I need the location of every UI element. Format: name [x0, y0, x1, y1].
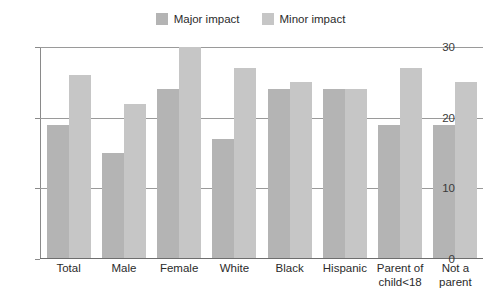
bar-minor-impact — [69, 75, 91, 259]
legend-item-major-impact: Major impact — [156, 13, 240, 25]
x-label-line: Parent of — [374, 262, 427, 276]
bar-group — [207, 47, 262, 259]
bar-minor-impact — [290, 82, 312, 259]
x-label-parent-of-child-18: Parent ofchild<18 — [373, 262, 428, 289]
legend-label-major-impact: Major impact — [174, 13, 240, 25]
x-label-hispanic: Hispanic — [317, 262, 372, 289]
x-label-white: White — [207, 262, 262, 289]
y-tick-label-30: 30 — [427, 41, 455, 53]
x-label-line: Female — [153, 262, 206, 276]
x-axis-line — [40, 258, 483, 259]
bar-major-impact — [212, 139, 234, 259]
y-tick-mark-30 — [35, 47, 40, 48]
bar-group — [317, 47, 372, 259]
bar-major-impact — [268, 89, 290, 259]
bar-group — [96, 47, 151, 259]
x-label-black: Black — [262, 262, 317, 289]
x-label-line: parent — [429, 276, 482, 290]
bar-group — [152, 47, 207, 259]
bar-group — [373, 47, 428, 259]
bar-major-impact — [378, 125, 400, 259]
bar-group — [262, 47, 317, 259]
bar-minor-impact — [124, 104, 146, 259]
bar-group — [428, 47, 483, 259]
bar-minor-impact — [234, 68, 256, 259]
bar-minor-impact — [455, 82, 477, 259]
x-label-total: Total — [41, 262, 96, 289]
legend-swatch-major-impact — [156, 13, 168, 25]
bar-group — [41, 47, 96, 259]
plot-area — [40, 47, 483, 259]
x-label-line: Hispanic — [318, 262, 371, 276]
y-tick-mark-0 — [35, 259, 40, 260]
legend-label-minor-impact: Minor impact — [280, 13, 346, 25]
bar-major-impact — [47, 125, 69, 259]
bar-chart: Major impact Minor impact TotalMaleFemal… — [0, 0, 501, 303]
x-label-not-a-parent: Not aparent — [428, 262, 483, 289]
x-label-line: Total — [42, 262, 95, 276]
legend-swatch-minor-impact — [262, 13, 274, 25]
x-label-male: Male — [96, 262, 151, 289]
chart-legend: Major impact Minor impact — [0, 13, 501, 25]
y-tick-label-20: 20 — [427, 112, 455, 124]
x-label-line: White — [208, 262, 261, 276]
legend-item-minor-impact: Minor impact — [262, 13, 346, 25]
y-tick-mark-10 — [35, 188, 40, 189]
y-tick-mark-20 — [35, 118, 40, 119]
y-tick-label-10: 10 — [427, 182, 455, 194]
x-axis-labels: TotalMaleFemaleWhiteBlackHispanicParent … — [41, 262, 483, 289]
bar-major-impact — [157, 89, 179, 259]
bar-minor-impact — [345, 89, 367, 259]
bar-minor-impact — [400, 68, 422, 259]
x-label-line: child<18 — [374, 276, 427, 290]
y-tick-label-0: 0 — [427, 253, 455, 265]
bar-groups — [41, 47, 483, 259]
bar-major-impact — [102, 153, 124, 259]
x-label-female: Female — [152, 262, 207, 289]
x-label-line: Male — [97, 262, 150, 276]
x-label-line: Black — [263, 262, 316, 276]
bar-minor-impact — [179, 47, 201, 259]
bar-major-impact — [323, 89, 345, 259]
